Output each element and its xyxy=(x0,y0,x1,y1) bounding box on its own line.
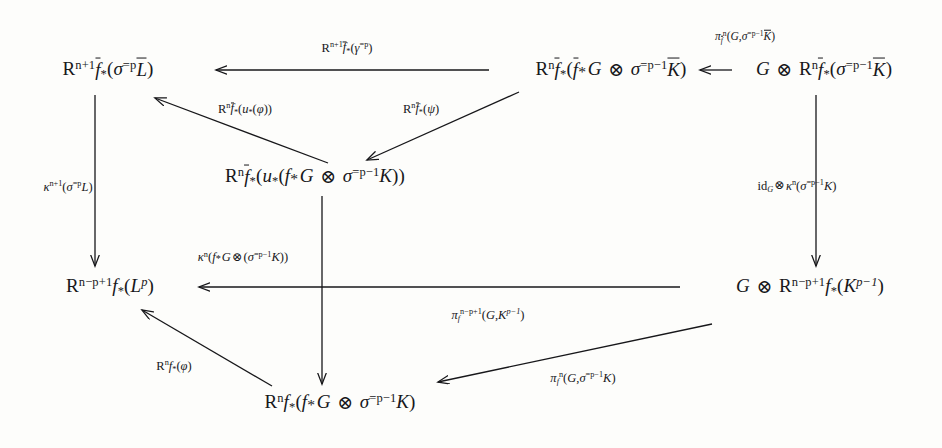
node-center: Rnf*(u*(f* G ⊗ σ=p−1K)) xyxy=(225,166,405,189)
node-top-right: G ⊗ Rnf*(σ=p−1K) xyxy=(756,59,892,82)
arrow-label-bottom-horizontal: πfn−p+1(G,Kp−1) xyxy=(452,308,525,323)
node-bottom-center: Rnf*(f* G ⊗ σ=p−1K) xyxy=(264,392,415,415)
arrow-label-center-to-top-left: Rnf*(u*(φ)) xyxy=(218,102,272,117)
node-bottom-right: G ⊗ Rn−p+1f*(Kp−1) xyxy=(736,276,884,299)
arrow-label-top-right-horizontal: πfn(G,σ=p−1K) xyxy=(715,30,775,45)
arrow-label-top-middle-to-center: Rnf*(ψ) xyxy=(403,102,439,117)
arrow-label-middle-vertical: κn(f* G⊗(σ=p−1K)) xyxy=(198,251,288,265)
arrow-label-bottom-right-to-bottom-center: πfn(G,σ=p−1K) xyxy=(550,371,615,386)
arrow-label-left-vertical: κn+1(σ=pL) xyxy=(43,180,92,193)
arrow-label-bottom-center-to-bottom-left: Rnf*(φ) xyxy=(156,359,191,374)
node-bottom-left: Rn−p+1f*(Lp) xyxy=(66,276,154,299)
arrow-bottom-center-to-bottom-left xyxy=(142,310,272,386)
commutative-diagram: Rn+1f*(σ=pL) Rnf*(f* G ⊗ σ=p−1K) G ⊗ Rnf… xyxy=(0,0,942,448)
arrow-label-right-vertical: idG⊗κn(σ=p−1K) xyxy=(758,179,837,194)
arrow-top-middle-to-center xyxy=(367,92,519,160)
arrow-label-top-horizontal: Rn+1f*(γ=p) xyxy=(322,41,373,56)
node-top-middle: Rnf*(f* G ⊗ σ=p−1K) xyxy=(535,59,686,82)
node-top-left: Rn+1f*(σ=pL) xyxy=(62,59,153,82)
